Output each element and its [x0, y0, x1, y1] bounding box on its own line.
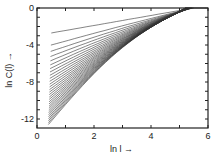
chart: 02460-4-8-12ln C(l) →ln l → [0, 0, 216, 160]
data-curve [49, 8, 186, 119]
data-curve [51, 8, 194, 33]
y-tick-label: -8 [26, 77, 34, 87]
x-tick-label: 2 [91, 131, 96, 141]
x-tick-label: 0 [34, 131, 39, 141]
x-axis-label: ln l → [110, 144, 133, 154]
data-curve [48, 8, 185, 125]
data-curve [49, 8, 187, 113]
y-tick-label: 0 [29, 3, 34, 13]
y-tick-label: -12 [21, 114, 34, 124]
y-tick-label: -4 [26, 40, 34, 50]
x-tick-label: 6 [205, 131, 210, 141]
y-axis-label: ln C(l) → [4, 52, 14, 88]
data-curve [49, 8, 187, 102]
x-tick-label: 4 [148, 131, 153, 141]
data-curve [49, 8, 186, 123]
